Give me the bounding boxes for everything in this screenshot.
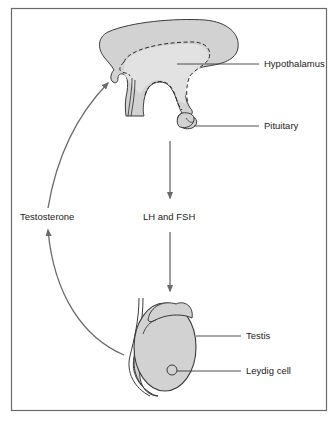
testis-illustration xyxy=(129,298,196,396)
label-testosterone: Testosterone xyxy=(20,212,74,222)
label-pituitary: Pituitary xyxy=(264,121,298,131)
testosterone-arrow-upper xyxy=(48,83,108,208)
leydig-cell-marker xyxy=(167,365,177,375)
label-leydig-cell: Leydig cell xyxy=(246,366,291,376)
hormone-feedback-diagram: Hypothalamus Pituitary LH and FSH Testos… xyxy=(0,0,335,421)
label-lh-fsh: LH and FSH xyxy=(143,212,195,222)
label-testis: Testis xyxy=(246,331,270,341)
hypothalamus-pituitary-illustration xyxy=(99,20,238,129)
label-hypothalamus: Hypothalamus xyxy=(264,59,325,69)
testosterone-arrow-lower xyxy=(48,230,124,355)
